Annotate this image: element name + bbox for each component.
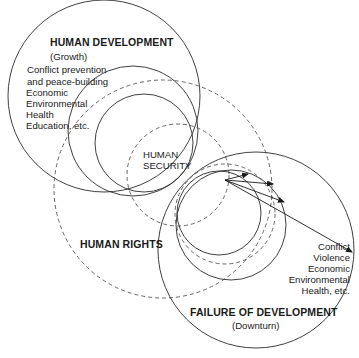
fd-item: Conflict: [260, 241, 350, 252]
hd-item: Health: [26, 109, 108, 120]
hd-item: Economic: [26, 87, 108, 98]
fd-item: Health, etc.: [260, 285, 350, 296]
hd-item: Education, etc.: [26, 120, 108, 131]
failure-items: Conflict Violence Economic Environmental…: [260, 241, 350, 296]
human-security-line2: SECURITY: [143, 160, 192, 171]
human-rights-title: HUMAN RIGHTS: [80, 238, 163, 250]
human-security-label: HUMAN SECURITY: [143, 149, 192, 171]
hd-item: Environmental: [26, 98, 108, 109]
human-development-subtitle: (Growth): [50, 51, 87, 62]
fd-item: Environmental: [260, 274, 350, 285]
human-development-title: HUMAN DEVELOPMENT: [50, 36, 174, 48]
failure-of-development-subtitle: (Downturn): [232, 320, 279, 331]
failure-of-development-title: FAILURE OF DEVELOPMENT: [190, 306, 337, 318]
human-development-items: Conflict prevention and peace-building E…: [27, 64, 108, 131]
downturn-inner-circle-inner: [177, 171, 261, 255]
hd-item: and peace-building: [27, 76, 108, 87]
hd-item: Conflict prevention: [27, 64, 108, 75]
arrow-3: [225, 180, 284, 202]
fd-item: Violence: [260, 252, 350, 263]
human-security-line1: HUMAN: [143, 149, 192, 160]
fd-item: Economic: [260, 263, 350, 274]
